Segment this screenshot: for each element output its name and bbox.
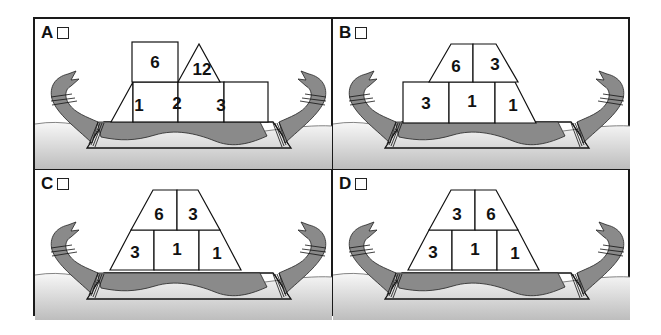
answer-option-a[interactable]: 123612 A (35, 19, 332, 169)
option-label: B (339, 23, 367, 43)
option-checkbox[interactable] (355, 27, 367, 39)
option-letter: D (339, 174, 351, 194)
block-label-bottom-right: 1 (212, 244, 221, 263)
answer-option-d[interactable]: 31136 D (333, 170, 630, 320)
block-label-top-triangle: 12 (193, 60, 212, 79)
cargo-block (177, 190, 220, 230)
block-label-top-right: 6 (486, 205, 495, 224)
block-label-bottom-middle: 1 (172, 240, 181, 259)
answer-options-figure: 123612 A 31163 B (33, 17, 630, 316)
option-checkbox[interactable] (355, 178, 367, 190)
block-label-top-left: 6 (451, 57, 460, 76)
boat-illustration: 123612 (35, 19, 332, 169)
option-letter: A (41, 23, 53, 43)
boat-illustration: 31163 (333, 19, 630, 169)
cargo-block (475, 190, 518, 230)
block-label-bottom-middle: 1 (470, 240, 479, 259)
block-label-top-square: 6 (150, 53, 159, 72)
block-label-bottom-left: 3 (428, 243, 437, 262)
block-label-top-left: 6 (154, 205, 163, 224)
cargo-block (111, 82, 133, 122)
option-letter: B (339, 23, 351, 43)
cargo-block (224, 82, 268, 122)
block-label-top-right: 3 (188, 205, 197, 224)
option-label: C (41, 174, 69, 194)
block-label-top-left: 3 (452, 205, 461, 224)
boat-illustration: 31163 (35, 170, 332, 320)
block-label-top-right: 3 (490, 55, 499, 74)
option-label: D (339, 174, 367, 194)
block-label-bottom-right: 1 (510, 244, 519, 263)
option-letter: C (41, 174, 53, 194)
block-label-bottom-left: 1 (134, 96, 143, 115)
answer-option-b[interactable]: 31163 B (333, 19, 630, 169)
block-label-bottom-middle: 2 (172, 94, 181, 113)
block-label-bottom-middle: 1 (467, 92, 476, 111)
option-checkbox[interactable] (57, 27, 69, 39)
block-label-bottom-right: 1 (508, 96, 517, 115)
boat-illustration: 31136 (333, 170, 630, 320)
option-label: A (41, 23, 69, 43)
block-label-bottom-left: 3 (130, 243, 139, 262)
option-checkbox[interactable] (57, 178, 69, 190)
block-label-bottom-left: 3 (421, 94, 430, 113)
answer-option-c[interactable]: 31163 C (35, 170, 332, 320)
block-label-bottom-right: 3 (216, 96, 225, 115)
